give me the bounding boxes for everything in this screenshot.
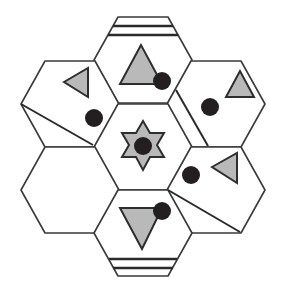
dot-icon bbox=[182, 166, 200, 184]
hex-puzzle-diagram bbox=[0, 0, 293, 289]
dot-icon bbox=[134, 137, 152, 155]
dot-icon bbox=[201, 98, 219, 116]
dot-icon bbox=[153, 202, 171, 220]
dot-icon bbox=[153, 72, 171, 90]
dot-icon bbox=[85, 109, 103, 127]
